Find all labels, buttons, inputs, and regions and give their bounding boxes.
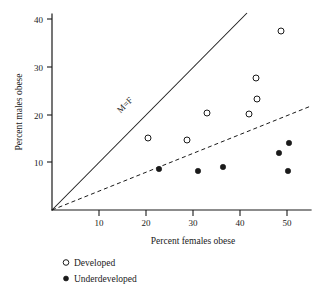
data-point-developed — [254, 96, 260, 102]
data-point-underdeveloped — [156, 166, 161, 171]
mf-reference-line — [52, 13, 247, 210]
legend-marker-filled-circle-icon — [64, 276, 69, 281]
legend: Developed Underdeveloped — [63, 258, 137, 284]
x-tick-label-10: 10 — [95, 218, 105, 228]
data-point-developed — [246, 111, 252, 117]
obesity-scatter-figure: 40 30 20 10 10 20 30 40 50 Percent femal… — [0, 0, 326, 294]
x-tick-label-20: 20 — [142, 218, 152, 228]
mf-line-label: M=F — [115, 95, 135, 115]
data-point-underdeveloped — [195, 168, 200, 173]
data-point-underdeveloped — [286, 140, 291, 145]
y-tick-label-20: 20 — [34, 111, 44, 121]
legend-marker-open-circle-icon — [63, 260, 69, 266]
scatter-plot-canvas: 40 30 20 10 10 20 30 40 50 Percent femal… — [0, 0, 326, 294]
x-axis-title: Percent females obese — [151, 236, 235, 246]
x-tick-label-40: 40 — [236, 218, 246, 228]
data-point-developed — [184, 137, 190, 143]
series-underdeveloped — [156, 140, 291, 173]
axes-group — [52, 14, 311, 210]
trend-reference-line — [52, 106, 311, 210]
y-tick-label-40: 40 — [34, 15, 44, 25]
data-point-underdeveloped — [220, 164, 225, 169]
legend-label-developed: Developed — [74, 258, 115, 268]
legend-label-underdeveloped: Underdeveloped — [74, 274, 137, 284]
x-axis-ticks: 10 20 30 40 50 — [95, 210, 293, 228]
data-point-developed — [278, 28, 284, 34]
y-tick-label-30: 30 — [34, 63, 44, 73]
data-point-developed — [253, 75, 259, 81]
y-axis-title: Percent males obese — [14, 73, 24, 150]
data-point-developed — [145, 135, 151, 141]
data-point-underdeveloped — [285, 168, 290, 173]
y-axis-ticks: 40 30 20 10 — [34, 15, 52, 168]
x-tick-label-30: 30 — [189, 218, 199, 228]
data-point-developed — [204, 110, 210, 116]
x-tick-label-50: 50 — [283, 218, 293, 228]
data-point-underdeveloped — [276, 150, 281, 155]
y-tick-label-10: 10 — [34, 158, 44, 168]
